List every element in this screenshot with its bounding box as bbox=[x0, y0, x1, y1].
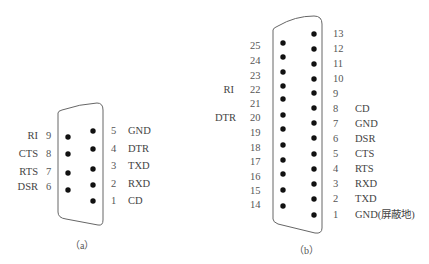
pin-number: 18 bbox=[250, 142, 261, 153]
db25-pins-left bbox=[280, 40, 285, 208]
pin-number: 19 bbox=[250, 127, 261, 138]
pin-number: 17 bbox=[250, 156, 261, 167]
signal-label: DSR bbox=[18, 181, 38, 192]
signal-label: GND bbox=[128, 125, 151, 136]
pin-number: 8 bbox=[46, 148, 51, 159]
pin-number: 12 bbox=[333, 43, 344, 54]
pin-number: 15 bbox=[250, 185, 261, 196]
pin-number: 16 bbox=[250, 171, 261, 182]
pin-number: 1 bbox=[333, 209, 338, 220]
pin-number: 13 bbox=[333, 28, 344, 39]
db9-pins-left bbox=[65, 134, 70, 192]
pin-number: 22 bbox=[250, 84, 261, 95]
signal-label: CD bbox=[128, 195, 143, 206]
pin-number: 23 bbox=[250, 70, 261, 81]
pin-number: 24 bbox=[250, 55, 261, 66]
pin-number: 9 bbox=[333, 88, 338, 99]
pin-number: 3 bbox=[111, 160, 116, 171]
db25-pins-right bbox=[311, 31, 316, 217]
signal-label: CTS bbox=[355, 148, 374, 159]
signal-label: RTS bbox=[19, 166, 38, 177]
pin-number: 4 bbox=[111, 143, 116, 154]
signal-label: DTR bbox=[128, 143, 149, 154]
connector-drawings bbox=[0, 0, 429, 264]
pin-number: 1 bbox=[111, 195, 116, 206]
db25-caption: （b） bbox=[294, 242, 319, 257]
signal-label: DSR bbox=[355, 133, 375, 144]
signal-label: CTS bbox=[19, 148, 38, 159]
pin-number: 7 bbox=[46, 166, 51, 177]
signal-label: TXD bbox=[128, 160, 150, 171]
db9-pins-right bbox=[90, 128, 95, 203]
signal-label: GND(屏蔽地) bbox=[355, 209, 415, 220]
pin-number: 14 bbox=[250, 199, 261, 210]
db9-caption: （a） bbox=[70, 237, 94, 252]
signal-label: DTR bbox=[215, 112, 236, 123]
pin-number: 11 bbox=[333, 58, 343, 69]
pin-number: 6 bbox=[333, 133, 338, 144]
signal-label: RXD bbox=[128, 178, 150, 189]
pin-number: 3 bbox=[333, 178, 338, 189]
pin-number: 10 bbox=[333, 73, 344, 84]
pin-number: 5 bbox=[111, 125, 116, 136]
signal-label: TXD bbox=[355, 193, 377, 204]
pin-number: 25 bbox=[250, 40, 261, 51]
pin-number: 2 bbox=[333, 193, 338, 204]
pin-number: 2 bbox=[111, 178, 116, 189]
signal-label: CD bbox=[355, 103, 370, 114]
pin-number: 8 bbox=[333, 103, 338, 114]
pin-number: 4 bbox=[333, 163, 338, 174]
signal-label: RI bbox=[28, 130, 39, 141]
pin-number: 9 bbox=[46, 130, 51, 141]
signal-label: RXD bbox=[355, 178, 377, 189]
pin-number: 20 bbox=[250, 112, 261, 123]
db9-connector-outline bbox=[58, 103, 103, 225]
pin-number: 7 bbox=[333, 118, 338, 129]
signal-label: RI bbox=[224, 84, 235, 95]
pin-number: 5 bbox=[333, 148, 338, 159]
pin-number: 6 bbox=[46, 181, 51, 192]
signal-label: GND bbox=[355, 118, 378, 129]
pin-number: 21 bbox=[250, 98, 261, 109]
signal-label: RTS bbox=[355, 163, 374, 174]
